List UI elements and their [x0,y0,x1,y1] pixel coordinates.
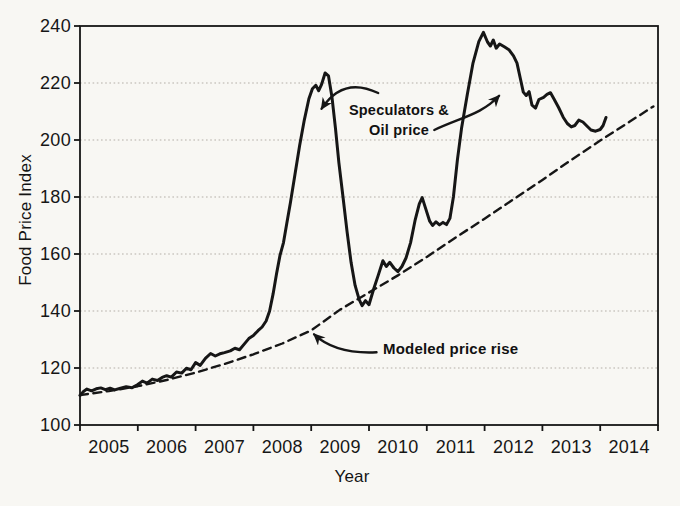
x-tick-label-2009: 2009 [319,437,360,457]
x-tick-label-2007: 2007 [204,437,245,457]
y-axis-title: Food Price Index [16,154,36,286]
x-tick-label-2010: 2010 [377,437,418,457]
x-tick-label-2011: 2011 [436,437,476,457]
y-tick-label-180: 180 [40,187,71,207]
x-axis-title: Year [334,467,369,487]
y-tick-label-240: 240 [40,16,71,36]
x-tick-label-2006: 2006 [146,437,187,457]
x-tick-label-2008: 2008 [262,437,303,457]
annotation-speculators-line2: Oil price [349,121,449,141]
x-tick-label-2005: 2005 [88,437,129,457]
plot-border [80,26,658,425]
x-tick-label-2014: 2014 [608,437,649,457]
x-tick-label-2012: 2012 [493,437,534,457]
y-tick-label-220: 220 [40,73,71,93]
modeled-arrow [314,334,376,352]
x-tick-label-2013: 2013 [551,437,592,457]
y-tick-label-160: 160 [40,244,71,264]
annotation-modeled-price-rise: Modeled price rise [383,340,518,357]
food-price-chart-figure: 1001201401601802002202402005200620072008… [0,0,680,506]
y-tick-label-200: 200 [40,130,71,150]
chart-canvas: 1001201401601802002202402005200620072008… [0,0,680,506]
series-food-price-index-actual-line [80,32,606,395]
y-tick-label-120: 120 [40,358,71,378]
y-tick-label-140: 140 [40,301,71,321]
y-tick-label-100: 100 [40,415,71,435]
annotation-speculators-line1: Speculators & [349,101,449,121]
annotation-speculators-oil: Speculators & Oil price [349,101,449,140]
